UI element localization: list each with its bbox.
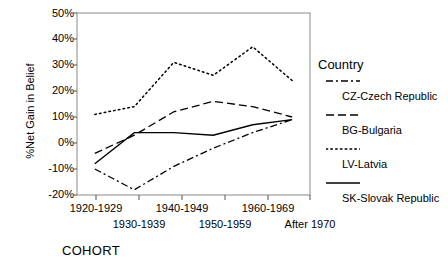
legend-item-lv[interactable]: LV-Latvia bbox=[318, 146, 448, 180]
x-tick-label-1930-1939: 1930-1939 bbox=[101, 218, 177, 230]
plot-frame bbox=[77, 13, 310, 195]
legend-label-bg: BG-Bulgaria bbox=[342, 124, 402, 136]
x-tick-label-1920-1929: 1920-1929 bbox=[58, 202, 134, 214]
legend-item-sk[interactable]: SK-Slovak Republic bbox=[318, 180, 448, 214]
legend-label-cz: CZ-Czech Republic bbox=[342, 90, 437, 102]
series-line-bg bbox=[95, 47, 292, 115]
legend-label-lv: LV-Latvia bbox=[342, 158, 387, 170]
legend-swatch-sk-icon bbox=[326, 180, 360, 186]
x-axis-title: COHORT bbox=[62, 243, 120, 258]
x-tick-label-1940-1949: 1940-1949 bbox=[144, 202, 220, 214]
x-axis-ticks bbox=[96, 195, 310, 200]
legend-swatch-bg-icon bbox=[326, 112, 360, 118]
series-line-sk bbox=[95, 120, 292, 164]
chart-container: %Net Gain in Belief 50% 40% 30% 20% 10% … bbox=[0, 0, 448, 266]
legend: Country CZ-Czech Republic BG-Bulgaria LV… bbox=[318, 58, 448, 214]
x-tick-label-1960-1969: 1960-1969 bbox=[230, 202, 306, 214]
y-axis-ticks bbox=[73, 13, 77, 195]
x-tick-label-1950-1959: 1950-1959 bbox=[187, 218, 263, 230]
legend-label-sk: SK-Slovak Republic bbox=[342, 192, 439, 204]
x-tick-label-after-1970: After 1970 bbox=[272, 218, 348, 230]
legend-title: Country bbox=[318, 58, 448, 72]
legend-swatch-lv-icon bbox=[326, 146, 360, 152]
legend-item-cz[interactable]: CZ-Czech Republic bbox=[318, 78, 448, 112]
legend-swatch-cz-icon bbox=[326, 78, 360, 84]
series-line-cz bbox=[95, 120, 292, 190]
legend-item-bg[interactable]: BG-Bulgaria bbox=[318, 112, 448, 146]
